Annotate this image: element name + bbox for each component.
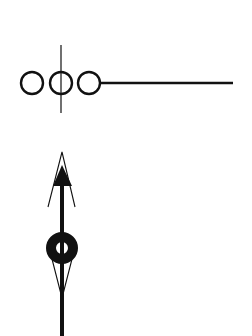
diagram-canvas	[0, 0, 252, 336]
background	[0, 0, 252, 336]
